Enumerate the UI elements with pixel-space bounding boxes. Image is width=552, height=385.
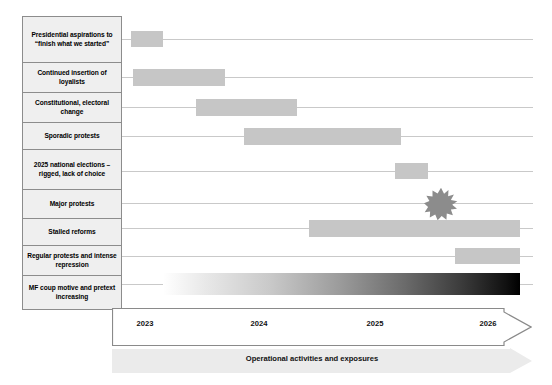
plot-area (0, 0, 552, 310)
axis-year-2023: 2023 (125, 319, 165, 328)
bar-mf-coup-motive[interactable] (163, 273, 520, 295)
axis-year-2026: 2026 (468, 319, 508, 328)
bar-regular-protests[interactable] (455, 248, 520, 264)
bar-2025-elections[interactable] (395, 163, 428, 179)
bar-sporadic-protests[interactable] (244, 128, 401, 145)
major-protests-starburst-icon[interactable] (424, 187, 458, 221)
axis-year-2025: 2025 (355, 319, 395, 328)
timeline-chart: Presidential aspirations to “finish what… (0, 0, 552, 385)
bar-constitutional-change[interactable] (196, 99, 297, 116)
bar-presidential-aspirations[interactable] (131, 31, 163, 47)
bar-stalled-reforms[interactable] (309, 220, 520, 237)
row-gridline-5 (122, 171, 533, 172)
row-gridline-1 (122, 39, 533, 40)
bar-continued-insertion[interactable] (133, 69, 225, 86)
operational-activities-label: Operational activities and exposures (112, 354, 512, 363)
row-gridline-3 (122, 107, 533, 108)
row-gridline-6 (122, 203, 533, 204)
axis-year-2024: 2024 (239, 319, 279, 328)
